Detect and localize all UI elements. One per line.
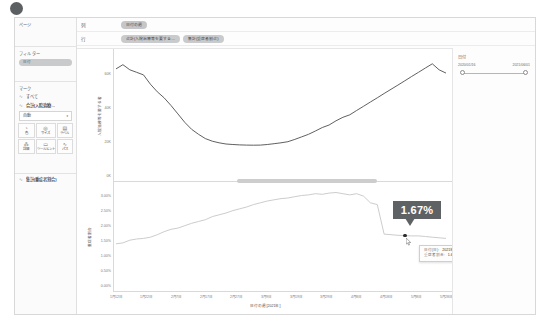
marks-card-measure[interactable]: ∿ 合計(入院治療… — [15, 100, 76, 109]
x-axis-tick: 2月17日 — [200, 294, 212, 299]
x-axis-tick: 1月12日 — [110, 294, 122, 299]
marks-button-detail-label: 詳細 — [23, 147, 29, 151]
y-axis-tick: 0.00% — [101, 284, 111, 288]
x-axis-tick: 4月8日 — [351, 294, 361, 299]
marks-card-severity-label: 集計(重症者割合) — [26, 176, 57, 182]
chevron-down-icon: ▾ — [66, 112, 68, 120]
date-range-slider[interactable] — [458, 69, 530, 77]
date-filter-end: 2021/06/01 — [512, 63, 530, 67]
detail-icon: ⁂ — [24, 142, 29, 147]
marks-button-path[interactable]: ∿ パス — [57, 139, 74, 154]
rows-chip-severity[interactable]: 集計(重症者割合) — [183, 35, 224, 43]
mouse-cursor-icon — [406, 238, 412, 246]
chart-panel-bottom: 重症者割合 0.00%0.50%1.00%1.50%2.00%2.50%3.00… — [77, 182, 453, 292]
mark-type-value: 自動 — [23, 112, 31, 120]
y-axis-tick: 0K — [107, 174, 111, 178]
shelf-area: 列 日付の週 行 合計(入院治療等を要する… 集計(重症者割合) — [77, 18, 535, 48]
date-filter-card: 日付 2020/01/16 2021/06/01 — [458, 54, 530, 77]
rows-shelf-label: 行 — [77, 36, 121, 42]
columns-shelf[interactable]: 列 日付の週 — [77, 18, 535, 32]
x-axis-tick: 4月18日 — [380, 294, 392, 299]
y-axis-tick: 1.00% — [101, 254, 111, 258]
filter-pill-date[interactable]: 日付 — [19, 59, 72, 66]
y-axis-tick: 2.00% — [101, 224, 111, 228]
marks-button-label-label: ラベル — [60, 131, 69, 135]
slider-knob-end[interactable] — [523, 70, 528, 75]
marks-button-color[interactable]: ◔ 色 — [18, 123, 35, 138]
marks-button-tooltip-label: ツールヒント — [37, 147, 55, 151]
rows-chip-hospitalized[interactable]: 合計(入院治療等を要する… — [121, 35, 180, 43]
y-axis-tick: 20K — [105, 140, 111, 144]
x-axis-tick: 3月19日 — [290, 294, 302, 299]
slider-knob-start[interactable] — [460, 70, 465, 75]
columns-shelf-label: 列 — [77, 22, 121, 28]
y-axis-tick: 3.00% — [101, 194, 111, 198]
x-axis-tick: 5月8日 — [411, 294, 421, 299]
marks-button-size-label: サイズ — [41, 131, 50, 135]
window-badge-icon — [10, 2, 23, 15]
x-axis-tick: 5月28日 — [440, 294, 452, 299]
path-icon: ∿ — [63, 142, 67, 147]
date-filter-start: 2020/01/16 — [458, 63, 476, 67]
x-axis-tick: 1月22日 — [140, 294, 152, 299]
chart-panel-top: 入院治療等を要する者 0K20K40K60K — [77, 49, 453, 182]
y-axis-tick: 40K — [105, 106, 111, 110]
x-axis-tick: 2月27日 — [230, 294, 242, 299]
marks-section-title: マーク — [15, 82, 76, 91]
rows-shelf[interactable]: 行 合計(入院治療等を要する… 集計(重症者割合) — [77, 32, 535, 46]
x-axis-tick: 2月7日 — [171, 294, 181, 299]
screenshot-root: ページ フィルター 日付 マーク ∿ すべて ∿ 合計(入院治療… 自動 ▾ — [0, 0, 548, 323]
slider-track — [461, 73, 527, 74]
filters-section-title: フィルター — [15, 47, 76, 56]
label-icon: ▤ — [62, 126, 67, 131]
size-icon: ◎ — [43, 126, 47, 131]
tableau-window: ページ フィルター 日付 マーク ∿ すべて ∿ 合計(入院治療… 自動 ▾ — [14, 17, 536, 315]
date-filter-title: 日付 — [458, 54, 530, 60]
viz-canvas: 入院治療等を要する者 0K20K40K60K 重症者割合 0.00%0.50%1… — [77, 48, 453, 314]
line-icon: ∿ — [19, 94, 23, 99]
y-axis-tick: 60K — [105, 72, 111, 76]
x-axis-tick: 3月9日 — [261, 294, 271, 299]
bottom-chart-y-title: 重症者割合 — [87, 227, 92, 247]
top-chart-plot — [113, 49, 449, 182]
line-icon: ∿ — [19, 103, 23, 108]
marks-button-path-label: パス — [62, 147, 68, 151]
bottom-chart-plot — [113, 182, 449, 292]
tooltip-icon: ▭ — [43, 142, 48, 147]
top-chart-y-axis: 入院治療等を要する者 0K20K40K60K — [77, 49, 113, 182]
bottom-chart-y-axis: 重症者割合 0.00%0.50%1.00%1.50%2.00%2.50%3.00… — [77, 182, 113, 292]
marks-button-tooltip[interactable]: ▭ ツールヒント — [36, 139, 56, 154]
marks-card-all-label: すべて — [26, 93, 38, 99]
x-axis-title: 日付の週 [2021年] — [250, 303, 281, 308]
left-sidebar: ページ フィルター 日付 マーク ∿ すべて ∿ 合計(入院治療… 自動 ▾ — [15, 18, 77, 314]
line-icon: ∿ — [19, 177, 23, 182]
tooltip-key-severity: 重症者割合: — [424, 253, 445, 259]
mark-type-dropdown[interactable]: 自動 ▾ — [19, 111, 72, 121]
right-cards-column: 日付 2020/01/16 2021/06/01 — [452, 48, 535, 314]
top-chart-y-title: 入院治療等を要する者 — [97, 96, 102, 136]
pages-section-title: ページ — [15, 18, 76, 27]
y-axis-tick: 0.50% — [101, 269, 111, 273]
y-axis-tick: 1.50% — [101, 239, 111, 243]
x-axis-tick: 3月29日 — [320, 294, 332, 299]
x-axis-area: 1月12日1月22日2月7日2月17日2月27日3月9日3月19日3月29日4月… — [77, 292, 453, 314]
marks-button-color-label: 色 — [25, 131, 28, 135]
marks-buttons-grid: ◔ 色 ◎ サイズ ▤ ラベル ⁂ 詳細 ▭ ツールヒント — [18, 123, 73, 154]
value-callout: 1.67% — [393, 201, 442, 219]
marks-button-label[interactable]: ▤ ラベル — [57, 123, 74, 138]
marks-card-measure-label: 合計(入院治療… — [26, 102, 56, 108]
horizontal-scrollbar[interactable] — [237, 179, 377, 183]
marks-card-severity[interactable]: ∿ 集計(重症者割合) — [15, 174, 76, 183]
marks-button-detail[interactable]: ⁂ 詳細 — [18, 139, 35, 154]
palette-icon: ◔ — [25, 126, 28, 131]
y-axis-tick: 2.50% — [101, 209, 111, 213]
marks-card-all[interactable]: ∿ すべて — [15, 91, 76, 100]
marks-button-size[interactable]: ◎ サイズ — [36, 123, 56, 138]
date-filter-range: 2020/01/16 2021/06/01 — [458, 63, 530, 67]
columns-chip-date[interactable]: 日付の週 — [121, 21, 147, 29]
